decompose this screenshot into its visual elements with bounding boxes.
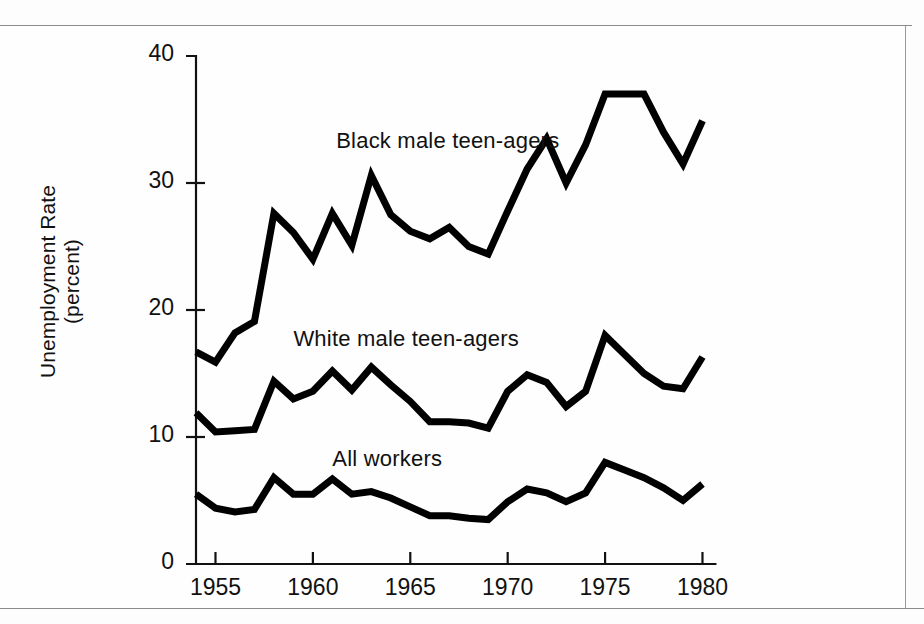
- y-axis-title: Unemployment Rate (percent): [36, 162, 83, 402]
- data-series: [196, 94, 702, 519]
- figure-page: Unemployment Rate (percent) 010203040 19…: [0, 0, 924, 624]
- x-tick-label-1980: 1980: [657, 574, 747, 601]
- y-axis-title-line1: Unemployment Rate: [36, 185, 59, 378]
- series-label-0: Black male teen-agers: [336, 128, 559, 154]
- chart-area: Unemployment Rate (percent) 010203040 19…: [0, 26, 905, 608]
- y-tick-label-40: 40: [114, 40, 174, 67]
- y-axis-title-line2: (percent): [60, 162, 84, 402]
- y-tick-label-0: 0: [114, 548, 174, 575]
- x-tick-label-1975: 1975: [560, 574, 650, 601]
- x-tick-label-1965: 1965: [365, 574, 455, 601]
- series-label-1: White male teen-agers: [293, 326, 519, 352]
- bottom-divider: [0, 608, 924, 609]
- x-tick-label-1970: 1970: [463, 574, 553, 601]
- x-tick-label-1960: 1960: [268, 574, 358, 601]
- y-tick-label-20: 20: [114, 294, 174, 321]
- right-divider: [905, 26, 906, 608]
- series-label-2: All workers: [332, 446, 442, 472]
- x-tick-label-1955: 1955: [170, 574, 260, 601]
- series-line-2: [196, 462, 702, 519]
- y-tick-label-30: 30: [114, 167, 174, 194]
- y-tick-label-10: 10: [114, 421, 174, 448]
